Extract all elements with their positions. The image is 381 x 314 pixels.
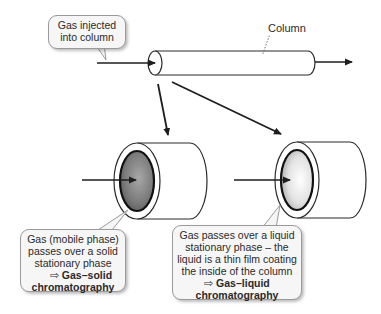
injected-callout-line2: into column	[49, 31, 125, 43]
liquid-result-label: Gas–liquid	[216, 277, 270, 289]
liquid-callout-line4: the inside of the column	[173, 265, 301, 277]
solid-callout-line1: Gas (mobile phase)	[21, 233, 125, 245]
branch-arrow-solid	[158, 84, 168, 135]
solid-callout-result: ⇨ Gas–solid	[21, 269, 125, 281]
solid-phase-callout: Gas (mobile phase) passes over a solid s…	[20, 229, 126, 292]
liquid-callout-line2: stationary phase – the	[173, 241, 301, 253]
liquid-callout-line1: Gas passes over a liquid	[173, 229, 301, 241]
injected-callout-line1: Gas injected	[49, 19, 125, 31]
solid-callout-result2: chromatography	[21, 281, 125, 293]
implies-arrow-icon: ⇨	[204, 277, 213, 289]
implies-arrow-icon: ⇨	[50, 269, 59, 281]
liquid-callout-line3: liquid is a thin film coating	[173, 253, 301, 265]
solid-callout-line3: stationary phase	[21, 257, 125, 269]
liquid-phase-callout: Gas passes over a liquid stationary phas…	[172, 225, 302, 300]
solid-phase-cylinder	[114, 143, 207, 219]
injected-callout: Gas injected into column	[48, 15, 126, 49]
branch-arrow-liquid	[172, 82, 281, 134]
liquid-callout-result: ⇨ Gas–liquid	[173, 277, 301, 289]
solid-result-label: Gas–solid	[62, 269, 112, 281]
liquid-callout-result2: chromatography	[173, 289, 301, 301]
column-label: Column	[268, 22, 306, 34]
solid-callout-tail	[98, 210, 128, 230]
gas-column	[148, 51, 315, 75]
solid-callout-line2: passes over a solid	[21, 245, 125, 257]
